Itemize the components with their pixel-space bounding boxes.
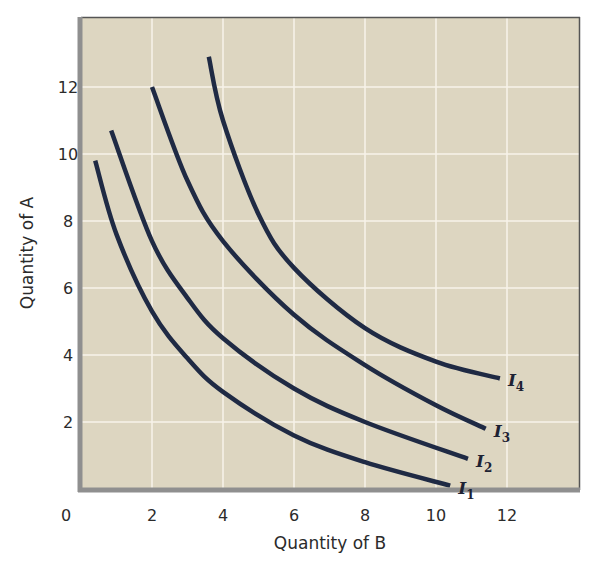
x-axis-label: Quantity of B xyxy=(274,533,386,553)
y-tick-label: 12 xyxy=(58,78,78,97)
y-tick-label: 2 xyxy=(63,413,73,432)
y-tick-label: 8 xyxy=(63,212,73,231)
y-tick-labels: 24681012 xyxy=(58,78,78,432)
y-tick-label: 4 xyxy=(63,346,73,365)
x-tick-label: 10 xyxy=(426,506,446,525)
y-tick-label: 10 xyxy=(58,145,78,164)
y-axis-label: Quantity of A xyxy=(17,196,37,309)
x-tick-label: 8 xyxy=(360,506,370,525)
x-tick-labels: 024681012 xyxy=(61,506,517,525)
y-tick-label: 6 xyxy=(63,279,73,298)
x-tick-label: 12 xyxy=(497,506,517,525)
x-tick-label: 0 xyxy=(61,506,71,525)
x-tick-label: 4 xyxy=(218,506,228,525)
x-tick-label: 6 xyxy=(289,506,299,525)
x-tick-label: 2 xyxy=(147,506,157,525)
indifference-curve-chart: 024681012 24681012 I1I2I3I4 Quantity of … xyxy=(0,0,594,566)
